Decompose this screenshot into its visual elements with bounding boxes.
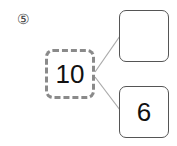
- part-answer-box[interactable]: [119, 10, 169, 62]
- whole-number-box: 10: [45, 49, 95, 99]
- part-number-box: 6: [119, 86, 169, 138]
